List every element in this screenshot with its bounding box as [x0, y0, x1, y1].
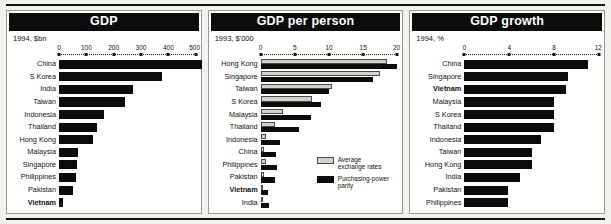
bar-row: Singapore: [11, 159, 196, 172]
bar-purchasing-power-parity: [261, 89, 329, 94]
bar-row-label: S Korea: [11, 73, 59, 81]
bar-row: S Korea: [213, 96, 398, 109]
bar-track: [464, 108, 599, 121]
bar-row: Vietnam: [414, 83, 599, 96]
bar-rows: ChinaS KoreaIndiaTaiwanIndonesiaThailand…: [11, 58, 196, 209]
bar: [59, 123, 97, 132]
chart-panel-gdp-per-person: GDP per person1993, $'00005101520Hong Ko…: [208, 10, 404, 214]
bar-track: [59, 159, 196, 172]
bar-purchasing-power-parity: [261, 77, 374, 82]
x-axis: 0100200300400500: [59, 44, 196, 58]
bar-row-label: Vietnam: [11, 199, 59, 207]
bar-row-label: S Korea: [414, 111, 464, 119]
axis-tick: [293, 53, 296, 56]
axis-tick-label: 200: [108, 44, 119, 52]
bar-row: Singapore: [414, 71, 599, 84]
plot-area: 05101520Hong KongSingaporeTaiwanS KoreaM…: [213, 44, 398, 209]
bar-track: [464, 184, 599, 197]
panel-container: GDP1994, $bn0100200300400500ChinaS Korea…: [6, 10, 605, 214]
bar-row-label: Malaysia: [213, 111, 261, 119]
bar-track: [261, 108, 398, 121]
bar-row-label: Thailand: [414, 123, 464, 131]
bar-row-label: Hong Kong: [11, 136, 59, 144]
axis-tick: [85, 53, 88, 56]
axis-tick: [112, 53, 115, 56]
bar: [464, 160, 531, 169]
bar-track: [261, 71, 398, 84]
axis-tick-label: 400: [163, 44, 174, 52]
axis-tick: [259, 53, 262, 56]
bar-row-label: Hong Kong: [213, 60, 261, 68]
bar-average-exchange-rates: [261, 109, 284, 114]
bar-row: Hong Kong: [414, 159, 599, 172]
legend-swatch-ppp: [317, 176, 334, 183]
bar-row-label: China: [414, 60, 464, 68]
bar-row-label: Pakistan: [213, 173, 261, 181]
bar-row: Thailand: [213, 121, 398, 134]
bar-row-label: Thailand: [11, 123, 59, 131]
bar-row-label: Malaysia: [11, 148, 59, 156]
plot-area: 0100200300400500ChinaS KoreaIndiaTaiwanI…: [11, 44, 196, 209]
bar-row-label: China: [213, 148, 261, 156]
axis-tick-label: 300: [136, 44, 147, 52]
bar: [464, 110, 554, 119]
bar-row: China: [11, 58, 196, 71]
top-rule: [6, 4, 605, 6]
axis-tick: [362, 53, 365, 56]
bar-purchasing-power-parity: [261, 190, 269, 195]
axis-tick: [167, 53, 170, 56]
bar: [464, 173, 520, 182]
bar: [464, 148, 531, 157]
bar-row-label: India: [213, 199, 261, 207]
axis-tick: [508, 53, 511, 56]
bar-row: Singapore: [213, 71, 398, 84]
axis-tick-label: 10: [325, 44, 332, 52]
chart-panel-gdp-growth: GDP growth1994, %04812ChinaSingaporeViet…: [409, 10, 605, 214]
bottom-rule: [6, 218, 605, 220]
bar: [59, 60, 202, 69]
bar-row-label: Philippines: [414, 199, 464, 207]
chart-title: GDP: [9, 13, 199, 31]
axis-tick-label: 500: [189, 44, 200, 52]
bar-track: [261, 58, 398, 71]
bar-row-label: Taiwan: [213, 85, 261, 93]
bar-purchasing-power-parity: [261, 64, 398, 69]
bar-track: [59, 171, 196, 184]
bar: [59, 97, 125, 106]
bar-average-exchange-rates: [261, 84, 332, 89]
bar-row: Hong Kong: [11, 133, 196, 146]
bar-track: [59, 83, 196, 96]
bar-row-label: China: [11, 60, 59, 68]
bar-row-label: India: [414, 173, 464, 181]
bar-track: [261, 133, 398, 146]
bar-track: [261, 83, 398, 96]
bar-row-label: Hong Kong: [414, 161, 464, 169]
chart-legend: Average exchange ratesPurchasing-power p…: [317, 156, 390, 194]
figure-sheet: GDP1994, $bn0100200300400500ChinaS Korea…: [0, 0, 611, 224]
bar: [464, 60, 587, 69]
legend-swatch-exchange: [317, 157, 334, 164]
bar: [59, 173, 76, 182]
chart-title: GDP per person: [211, 13, 401, 31]
bar-row-label: Indonesia: [213, 136, 261, 144]
bar-average-exchange-rates: [261, 172, 264, 177]
bar-row: Hong Kong: [213, 58, 398, 71]
bar-track: [59, 133, 196, 146]
bar-track: [464, 83, 599, 96]
bar-row: Taiwan: [414, 146, 599, 159]
bar-track: [464, 121, 599, 134]
bar-row: Thailand: [414, 121, 599, 134]
bar: [59, 85, 133, 94]
bar-row-label: S Korea: [213, 98, 261, 106]
bar-row-label: India: [11, 85, 59, 93]
x-axis: 05101520: [261, 44, 398, 58]
bar-row: Indonesia: [213, 133, 398, 146]
bar-average-exchange-rates: [261, 185, 263, 190]
axis-tick-label: 8: [552, 44, 556, 52]
bar-row-label: Pakistan: [11, 186, 59, 194]
bar-row: Pakistan: [11, 184, 196, 197]
axis-tick: [553, 53, 556, 56]
bar-row: Vietnam: [11, 196, 196, 209]
bar-row: Pakistan: [414, 184, 599, 197]
bar-row-label: Philippines: [11, 173, 59, 181]
